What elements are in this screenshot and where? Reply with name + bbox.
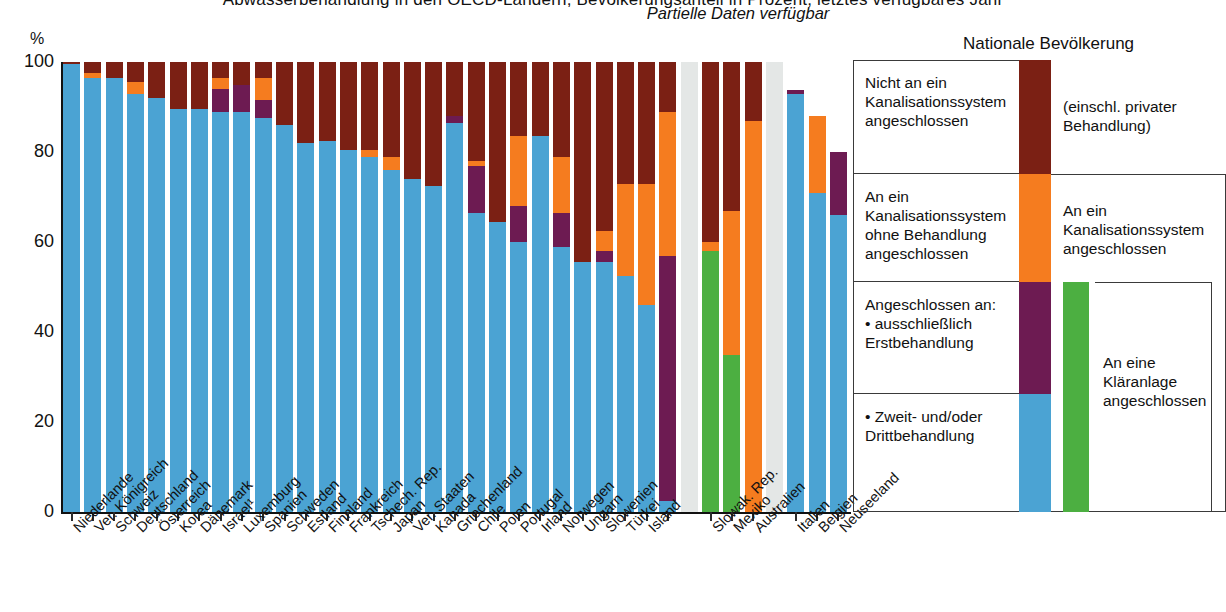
bar-segment-secondary-tertiary — [532, 136, 549, 512]
x-axis-tickmark — [71, 512, 73, 521]
bar-segment-not-connected — [297, 62, 314, 143]
bar-column — [127, 62, 144, 512]
bar-segment-secondary-tertiary — [319, 141, 336, 512]
bar-column — [830, 62, 847, 512]
bar-column — [404, 62, 421, 512]
bar-segment-secondary-tertiary — [468, 213, 485, 512]
bar-segment-not-connected — [468, 62, 485, 161]
bar-segment-secondary-tertiary — [191, 109, 208, 512]
bar-segment-secondary-tertiary — [255, 118, 272, 512]
bar-column — [489, 62, 506, 512]
legend-label-sewerage-no-treatment: An ein Kanalisationssystem ohne Behandlu… — [865, 188, 1015, 264]
bar-gap — [681, 62, 698, 512]
bar-segment-no-treatment — [468, 161, 485, 166]
bar-column — [297, 62, 314, 512]
bar-segment-secondary-tertiary — [233, 112, 250, 513]
bar-segment-no-treatment — [361, 150, 378, 157]
bar-column — [148, 62, 165, 512]
legend-swatch-sewerage-no-treatment — [1019, 174, 1051, 282]
legend-title: Nationale Bevölkerung — [963, 34, 1134, 54]
bar-segment-not-connected — [106, 62, 123, 78]
bar-segment-primary-only — [446, 116, 463, 123]
legend-swatch-not-connected — [1019, 60, 1051, 174]
bar-segment-secondary-tertiary — [276, 125, 293, 512]
bar-segment-not-connected — [383, 62, 400, 157]
plot-area — [63, 62, 853, 512]
bar-segment-no-treatment — [84, 73, 101, 78]
bar-segment-not-connected — [361, 62, 378, 150]
bar-column — [468, 62, 485, 512]
bar-segment-not-connected — [723, 62, 740, 211]
bar-segment-not-connected — [319, 62, 336, 141]
bar-segment-secondary-tertiary — [148, 98, 165, 512]
bar-segment-not-connected — [340, 62, 357, 150]
bar-segment-no-treatment — [255, 78, 272, 101]
bar-segment-primary-only — [233, 85, 250, 112]
bar-segment-no-treatment — [809, 116, 826, 193]
bar-segment-no-treatment — [510, 136, 527, 206]
bar-segment-primary-only — [787, 90, 804, 94]
bar-segment-secondary-tertiary — [361, 157, 378, 513]
bar-segment-not-connected — [63, 62, 80, 64]
bar-segment-secondary-tertiary — [446, 123, 463, 512]
bar-column — [233, 62, 250, 512]
bar-segment-secondary-tertiary — [212, 112, 229, 513]
bar-segment-missing — [766, 62, 783, 512]
bar-segment-not-connected — [510, 62, 527, 136]
bar-segment-secondary-tertiary — [340, 150, 357, 512]
bar-segment-no-treatment — [723, 211, 740, 355]
bar-column — [63, 62, 80, 512]
bar-column — [659, 62, 676, 512]
bar-column — [191, 62, 208, 512]
bar-segment-secondary-tertiary — [809, 193, 826, 513]
bar-segment-not-connected — [553, 62, 570, 157]
bar-segment-not-connected — [233, 62, 250, 85]
bar-segment-not-connected — [702, 62, 719, 242]
bar-segment-not-connected — [84, 62, 101, 73]
legend-group-label-connected-to-sewerage: An ein Kanalisationssystem angeschlossen — [1063, 202, 1226, 259]
chart-root: Abwasserbehandlung in den OECD-Ländern, … — [0, 0, 1226, 612]
bar-segment-secondary-tertiary — [489, 222, 506, 512]
bar-column — [340, 62, 357, 512]
bar-segment-green — [702, 251, 719, 512]
bar-segment-no-treatment — [745, 121, 762, 513]
bar-segment-secondary-tertiary — [106, 78, 123, 512]
bar-segment-no-treatment — [212, 78, 229, 89]
y-axis-tick-label: 40 — [8, 321, 54, 342]
bar-segment-primary-only — [468, 166, 485, 213]
bar-segment-primary-only — [212, 89, 229, 112]
bar-column — [617, 62, 634, 512]
y-axis-unit-label: % — [30, 30, 44, 48]
bar-segment-not-connected — [446, 62, 463, 116]
bar-segment-primary-only — [659, 256, 676, 501]
chart-title-partial: Abwasserbehandlung in den OECD-Ländern, … — [0, 0, 1226, 8]
bar-column — [809, 62, 826, 512]
bar-column — [745, 62, 762, 512]
bar-segment-no-treatment — [659, 112, 676, 256]
bar-segment-not-connected — [489, 62, 506, 222]
bar-column — [170, 62, 187, 512]
legend-swatch-primary-treatment-only — [1019, 282, 1051, 394]
bar-segment-not-connected — [191, 62, 208, 109]
bar-segment-no-treatment — [127, 82, 144, 93]
bar-segment-secondary-tertiary — [383, 170, 400, 512]
bar-column — [596, 62, 613, 512]
legend-swatch-secondary-tertiary-treatment — [1019, 394, 1051, 512]
bar-segment-not-connected — [425, 62, 442, 186]
bar-segment-secondary-tertiary — [170, 109, 187, 512]
bar-column — [212, 62, 229, 512]
y-axis-tick-label: 100 — [8, 51, 54, 72]
bar-gap — [766, 62, 783, 512]
bar-column — [383, 62, 400, 512]
legend-label-primary-treatment-only: Angeschlossen an: • ausschließlich Erstb… — [865, 296, 1015, 353]
y-axis-tick-label: 0 — [8, 501, 54, 522]
y-axis-tick-label: 80 — [8, 141, 54, 162]
bar-segment-missing — [681, 62, 698, 512]
bar-segment-secondary-tertiary — [617, 276, 634, 512]
bar-column — [638, 62, 655, 512]
bar-segment-primary-only — [553, 213, 570, 247]
bar-column — [553, 62, 570, 512]
bar-column — [255, 62, 272, 512]
bar-segment-not-connected — [659, 62, 676, 112]
bar-segment-primary-only — [830, 152, 847, 215]
